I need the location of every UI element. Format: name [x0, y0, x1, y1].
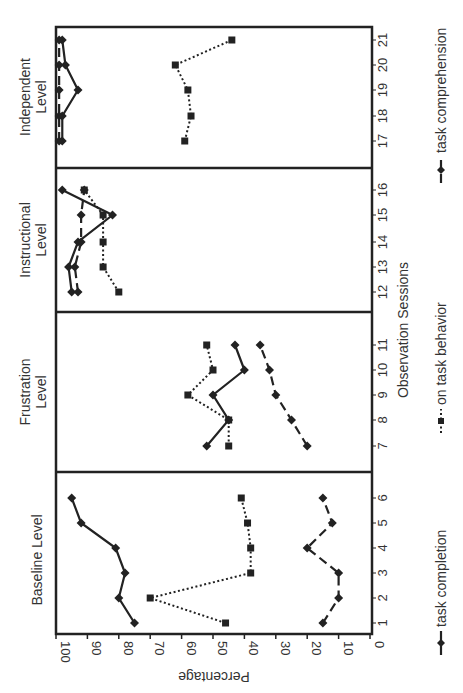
data-point	[172, 62, 179, 69]
x-tick-label: 18	[375, 109, 390, 123]
svg-text:Independent: Independent	[17, 58, 33, 136]
y-tick-label: 80	[121, 641, 136, 655]
data-point	[247, 545, 254, 552]
y-tick-label: 100	[58, 641, 73, 663]
phase-label: FrustrationLevel	[17, 359, 49, 426]
data-point	[67, 494, 76, 503]
svg-text:Baseline Level: Baseline Level	[29, 514, 45, 605]
data-point	[70, 263, 79, 272]
data-point	[184, 87, 191, 94]
x-tick-label: 4	[375, 544, 390, 551]
y-tick-label: 90	[89, 641, 104, 655]
legend-item: on task behavior	[433, 302, 449, 433]
svg-text:Level: Level	[33, 80, 49, 113]
y-tick-label: 0	[372, 641, 387, 648]
series-task-comprehension	[55, 36, 343, 628]
y-tick-label: 30	[278, 641, 293, 655]
x-tick-label: 20	[375, 58, 390, 72]
data-point	[230, 341, 239, 350]
y-tick-label: 10	[341, 641, 356, 655]
x-tick-label: 16	[375, 183, 390, 197]
data-point	[58, 186, 67, 195]
data-point	[228, 37, 235, 44]
data-point	[100, 212, 107, 219]
data-point	[265, 366, 274, 375]
legend-label: task completion	[433, 530, 449, 627]
data-point	[121, 569, 130, 578]
data-point	[225, 417, 232, 424]
x-tick-label: 10	[375, 363, 390, 377]
phase-label: Baseline Level	[29, 514, 45, 605]
x-tick-label: 19	[375, 83, 390, 97]
data-point	[247, 570, 254, 577]
y-tick-label: 20	[309, 641, 324, 655]
legend: task completionon task behaviortask comp…	[433, 28, 449, 655]
x-tick-label: 5	[375, 519, 390, 526]
svg-text:Level: Level	[33, 223, 49, 256]
data-point	[184, 392, 191, 399]
data-point	[318, 494, 327, 503]
svg-text:Frustration: Frustration	[17, 359, 33, 426]
data-point	[225, 443, 232, 450]
svg-text:Level: Level	[33, 375, 49, 408]
data-point	[115, 289, 122, 296]
legend-item: task comprehension	[433, 28, 449, 183]
series-task-completion	[58, 36, 249, 628]
line-chart: 0102030405060708090100 12345678910111213…	[0, 0, 463, 693]
y-tick-label: 70	[152, 641, 167, 655]
x-tick-label: 12	[375, 285, 390, 299]
data-point	[203, 342, 210, 349]
x-tick-label: 13	[375, 260, 390, 274]
x-tick-label: 21	[375, 33, 390, 47]
data-point	[271, 391, 280, 400]
plot-border	[56, 27, 372, 634]
series-on-task-behavior	[81, 37, 254, 627]
data-point	[210, 367, 217, 374]
x-tick-label: 11	[375, 338, 390, 352]
phase-label: IndependentLevel	[17, 58, 49, 136]
x-tick-label: 1	[375, 619, 390, 626]
plot-frame	[56, 27, 372, 634]
data-point	[256, 341, 265, 350]
session-axis-ticks: 123456789101112131415161718192021	[372, 33, 390, 627]
data-point	[222, 620, 229, 627]
y-tick-label: 50	[215, 641, 230, 655]
x-tick-label: 6	[375, 494, 390, 501]
x-axis-label: Observation Sessions	[395, 262, 411, 398]
data-point	[244, 520, 251, 527]
svg-text:Instructional: Instructional	[17, 202, 33, 277]
x-tick-label: 14	[375, 235, 390, 249]
data-point	[188, 113, 195, 120]
x-tick-label: 9	[375, 391, 390, 398]
legend-label: task comprehension	[433, 28, 449, 153]
legend-label: on task behavior	[433, 302, 449, 405]
y-axis-label: Percentage	[178, 669, 250, 685]
x-tick-label: 2	[375, 594, 390, 601]
x-tick-label: 8	[375, 416, 390, 423]
x-tick-label: 15	[375, 208, 390, 222]
x-tick-label: 17	[375, 134, 390, 148]
y-tick-label: 60	[184, 641, 199, 655]
legend-item: task completion	[433, 530, 449, 655]
data-point	[328, 519, 337, 528]
data-point	[73, 288, 82, 297]
y-tick-label: 40	[246, 641, 261, 655]
data-point	[100, 239, 107, 246]
x-tick-label: 7	[375, 442, 390, 449]
x-tick-label: 3	[375, 569, 390, 576]
data-point	[147, 595, 154, 602]
data-point	[238, 495, 245, 502]
data-point	[181, 138, 188, 145]
data-point	[334, 594, 343, 603]
data-point	[100, 264, 107, 271]
phase-labels: Baseline LevelFrustrationLevelInstructio…	[17, 58, 49, 606]
phase-label: InstructionalLevel	[17, 202, 49, 277]
percentage-axis-ticks: 0102030405060708090100	[56, 634, 387, 663]
data-point	[77, 211, 86, 220]
series-layer	[55, 36, 343, 628]
